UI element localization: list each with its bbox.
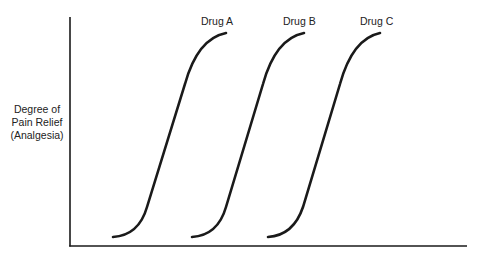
curve-drug-b [192, 33, 304, 237]
curve-drug-a [113, 33, 226, 237]
curve-drug-c [268, 33, 380, 237]
label-drug-a: Drug A [201, 15, 233, 27]
label-drug-c: Drug C [360, 15, 394, 27]
dose-response-plot: Drug A Drug B Drug C [0, 0, 478, 263]
label-drug-b: Drug B [283, 15, 316, 27]
